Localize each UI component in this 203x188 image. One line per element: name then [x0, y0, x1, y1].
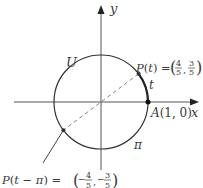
arc-label-pi: π: [133, 138, 143, 152]
arc-label-t: t: [149, 78, 154, 92]
leader-line: [43, 130, 63, 163]
svg-text:,: ,: [183, 64, 186, 75]
svg-text:): ): [196, 58, 202, 77]
svg-text:−: −: [78, 174, 86, 184]
svg-text:5: 5: [105, 181, 110, 188]
svg-text:3: 3: [189, 59, 194, 68]
unit-circle-diagram: y x U t π A(1, 0) P(t) = ( 4 5 , 3 5 ) P…: [0, 0, 203, 188]
y-axis-arrow-icon: [98, 5, 105, 14]
svg-text:3: 3: [105, 171, 110, 180]
point-A-label: A(1, 0): [150, 106, 192, 120]
x-axis-label: x: [191, 105, 199, 120]
y-axis-label: y: [109, 1, 118, 16]
circle-label: U: [66, 55, 78, 70]
svg-text:4: 4: [176, 59, 181, 68]
arc-t: [139, 74, 148, 102]
point-P-t-minus-pi-label: P(t − π) = ( − 4 5 , − 3 5 ): [1, 171, 118, 188]
point-A: [146, 100, 151, 105]
svg-text:5: 5: [86, 181, 91, 188]
svg-text:): ): [112, 171, 118, 188]
svg-text:−: −: [97, 174, 105, 184]
point-P-t-label: P(t) = ( 4 5 , 3 5 ): [135, 58, 202, 77]
point-P-t-minus-pi: [61, 128, 65, 132]
svg-text:,: ,: [93, 176, 96, 187]
svg-text:P(t − π) =: P(t − π) =: [1, 173, 61, 187]
svg-text:5: 5: [176, 68, 181, 77]
svg-text:P(t) =: P(t) =: [135, 61, 171, 75]
svg-text:5: 5: [189, 68, 194, 77]
svg-text:4: 4: [86, 171, 91, 180]
